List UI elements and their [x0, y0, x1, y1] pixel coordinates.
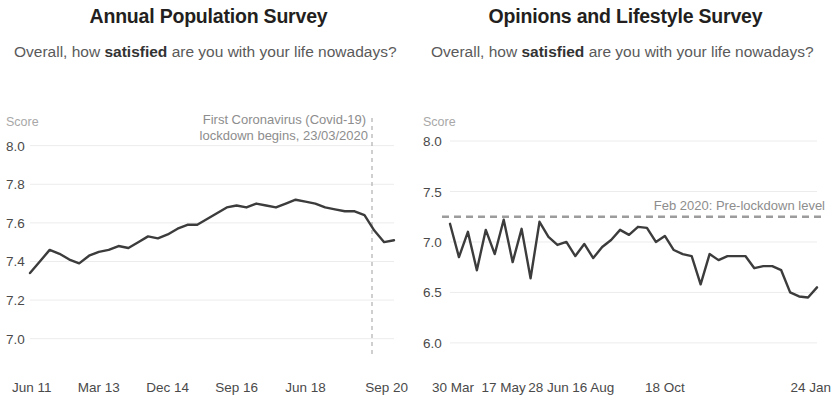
y-tick-label: 8.0 — [423, 134, 442, 149]
panel-title-left: Annual Population Survey — [0, 0, 417, 31]
x-tick-label: Jun 18 — [285, 380, 326, 395]
x-tick-label: 24 Jan — [790, 380, 831, 395]
pre-lockdown-reference-label: Feb 2020: Pre-lockdown level — [654, 198, 825, 213]
y-tick-label: 7.4 — [6, 254, 25, 269]
question-text-pre-right: Overall, how — [431, 43, 521, 60]
x-tick-label: Mar 13 — [78, 380, 120, 395]
x-tick-label: Sep 20 — [365, 380, 408, 395]
y-tick-label: 7.0 — [6, 332, 25, 347]
question-text-post-left: are you with your life nowadays? — [167, 43, 396, 60]
x-tick-label: Jun 11 — [12, 380, 52, 395]
panel-question-left: Overall, how satisfied are you with your… — [0, 31, 417, 79]
chart-svg-right: 8.07.57.06.56.0 Score Feb 2020: Pre-lock… — [417, 112, 834, 398]
question-text-bold-right: satisfied — [521, 43, 584, 60]
panel-title-right: Opinions and Lifestyle Survey — [417, 0, 834, 31]
gridlines-right — [450, 141, 817, 343]
lockdown-annotation-line1: First Coronavirus (Covid-19) — [203, 112, 366, 127]
panel-annual-population-survey: Annual Population Survey Overall, how sa… — [0, 0, 417, 398]
y-tick-label: 7.6 — [6, 216, 25, 231]
panel-question-right: Overall, how satisfied are you with your… — [417, 31, 834, 79]
x-tick-label: 18 Oct — [645, 380, 685, 395]
x-tick-label: 17 May — [482, 380, 527, 395]
lockdown-annotation-line2: lockdown begins, 23/03/2020 — [200, 128, 368, 143]
x-axis-tick-labels-left: Jun 11Mar 13Dec 14Sep 16Jun 18Sep 20 — [12, 380, 408, 395]
question-text-post-right: are you with your life nowadays? — [584, 43, 813, 60]
y-tick-label: 7.2 — [6, 293, 25, 308]
chart-svg-left: 8.07.87.67.47.27.0 Score First Coronavir… — [0, 112, 417, 398]
panel-opinions-lifestyle-survey: Opinions and Lifestyle Survey Overall, h… — [417, 0, 834, 398]
gridlines-left — [30, 146, 394, 339]
x-tick-label: Dec 14 — [146, 380, 189, 395]
series-line-right — [450, 220, 817, 298]
question-text-bold-left: satisfied — [104, 43, 167, 60]
x-axis-tick-labels-right: 30 Mar17 May28 Jun16 Aug18 Oct24 Jan — [432, 380, 831, 395]
question-text-pre-left: Overall, how — [14, 43, 104, 60]
y-axis-title-right: Score — [423, 115, 456, 129]
chart-annual-population-survey: 8.07.87.67.47.27.0 Score First Coronavir… — [0, 112, 417, 398]
y-axis-title-left: Score — [6, 115, 39, 129]
chart-opinions-lifestyle-survey: 8.07.57.06.56.0 Score Feb 2020: Pre-lock… — [417, 112, 834, 398]
y-tick-label: 6.0 — [423, 336, 442, 351]
y-tick-label: 7.5 — [423, 185, 442, 200]
y-axis-tick-labels-left: 8.07.87.67.47.27.0 — [6, 139, 25, 347]
x-tick-label: 30 Mar — [432, 380, 475, 395]
x-tick-label: 28 Jun — [528, 380, 569, 395]
x-tick-label: 16 Aug — [572, 380, 614, 395]
y-tick-label: 6.5 — [423, 285, 442, 300]
y-axis-tick-labels-right: 8.07.57.06.56.0 — [423, 134, 442, 351]
y-tick-label: 7.8 — [6, 177, 25, 192]
y-tick-label: 7.0 — [423, 235, 442, 250]
series-line-left — [30, 200, 394, 273]
x-tick-label: Sep 16 — [215, 380, 258, 395]
survey-charts-container: Annual Population Survey Overall, how sa… — [0, 0, 834, 398]
y-tick-label: 8.0 — [6, 139, 25, 154]
